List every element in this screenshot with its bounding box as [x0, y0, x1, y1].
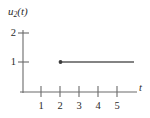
step-start-endpoint-dot: [59, 60, 63, 64]
x-tick-label-3: 3: [76, 101, 81, 112]
y-axis-title-subscript: 2: [14, 10, 18, 19]
plot-canvas: [0, 0, 150, 118]
x-tick-label-1: 1: [38, 101, 43, 112]
x-tick-label-2: 2: [57, 101, 62, 112]
y-axis-title-argument: (t): [17, 5, 27, 17]
y-tick-label-1: 1: [5, 57, 16, 68]
x-tick-label-4: 4: [95, 101, 100, 112]
y-axis-title-base: u: [8, 5, 14, 17]
y-tick-label-2: 2: [5, 28, 16, 39]
step-function-figure: u2(t) t 2 1 1 2 3 4 5: [0, 0, 150, 118]
x-tick-label-5: 5: [114, 101, 119, 112]
y-axis-title: u2(t): [8, 6, 28, 17]
x-axis-title: t: [139, 83, 142, 94]
